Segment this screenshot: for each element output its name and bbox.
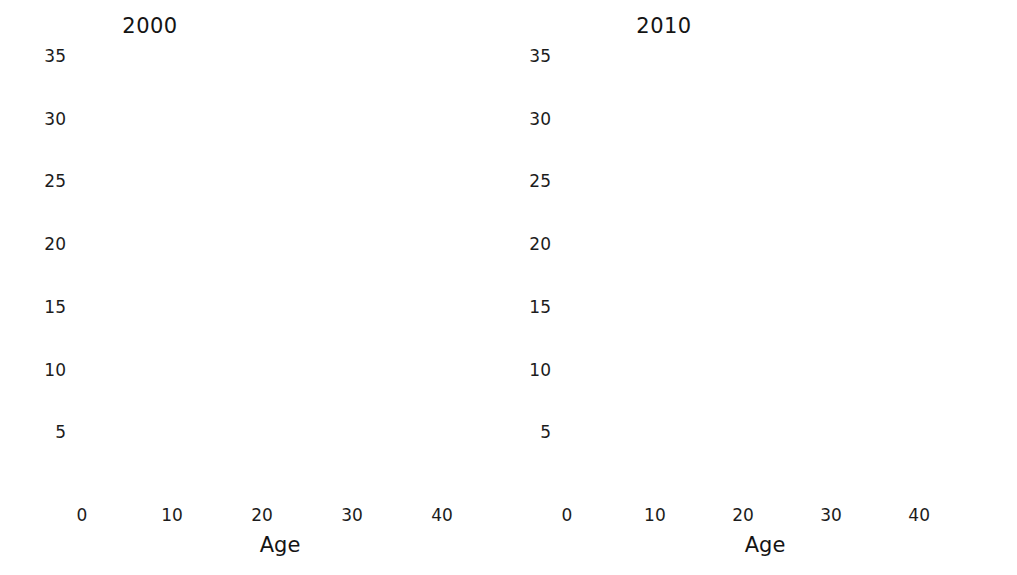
histogram-bar <box>351 419 355 494</box>
histogram-bar <box>945 481 949 494</box>
histogram-bar <box>396 444 400 494</box>
histogram-bar <box>619 444 623 494</box>
panel-title-2010: 2010 <box>509 14 1017 38</box>
histogram-bar <box>936 404 940 494</box>
histogram-bar <box>432 481 436 494</box>
y-tick-label: 10 <box>44 360 66 380</box>
histogram-bar <box>297 287 301 494</box>
histogram-bar <box>279 302 283 494</box>
histogram-bar <box>189 318 193 494</box>
histogram-bar <box>135 419 139 494</box>
histogram-bar <box>360 406 364 494</box>
x-axis-label-2010: Age <box>558 533 972 557</box>
histogram-bar <box>839 253 843 494</box>
bars-2010 <box>559 57 971 494</box>
histogram-bar <box>874 288 878 494</box>
panel-2000: 2000 5101520253035 010203040 Age <box>0 0 508 575</box>
histogram-bar <box>830 214 834 494</box>
histogram-bar <box>207 193 211 494</box>
x-tick-label: 20 <box>251 505 273 525</box>
histogram-bar <box>243 249 247 494</box>
histogram-bar <box>892 224 896 494</box>
two-panel-histogram-figure: 2000 5101520253035 010203040 Age 2010 51… <box>0 0 1017 575</box>
histogram-bar <box>733 418 737 495</box>
histogram-bar <box>698 419 702 494</box>
histogram-bar <box>812 231 816 494</box>
histogram-bar <box>117 419 121 494</box>
panel-title-2000: 2000 <box>0 14 508 38</box>
histogram-bar <box>848 405 852 494</box>
histogram-bar <box>575 431 579 494</box>
histogram-bar <box>742 443 746 494</box>
histogram-bar <box>252 218 256 494</box>
histogram-bar <box>865 312 869 494</box>
histogram-bar <box>901 325 905 494</box>
histogram-bar <box>450 475 454 494</box>
histogram-bar <box>583 469 587 494</box>
histogram-bar <box>270 356 274 494</box>
histogram-bar <box>180 356 184 494</box>
x-tick-label: 0 <box>561 505 572 525</box>
histogram-bar <box>234 218 238 494</box>
histogram-bar <box>707 446 711 494</box>
y-tick-label: 25 <box>529 171 551 191</box>
y-tick-label: 25 <box>44 171 66 191</box>
plot-area-2010 <box>558 56 972 495</box>
histogram-bar <box>126 444 130 494</box>
histogram-bar <box>654 456 658 494</box>
histogram-bar <box>610 469 614 494</box>
x-tick-label: 40 <box>908 505 930 525</box>
y-tick-label: 20 <box>44 234 66 254</box>
histogram-bar <box>777 229 781 494</box>
x-tick-label: 20 <box>732 505 754 525</box>
histogram-bar <box>724 379 728 494</box>
histogram-bar <box>405 469 409 494</box>
x-tick-label: 30 <box>820 505 842 525</box>
histogram-bar <box>786 188 790 494</box>
histogram-bar <box>342 355 346 494</box>
histogram-bar <box>566 456 570 494</box>
plot-area-2000 <box>73 56 487 495</box>
histogram-bar <box>716 430 720 494</box>
histogram-bar <box>601 456 605 494</box>
histogram-bar <box>198 218 202 494</box>
histogram-bar <box>324 316 328 494</box>
histogram-bar <box>927 443 931 494</box>
histogram-bar <box>636 469 640 494</box>
x-axis-label-2000: Age <box>73 533 487 557</box>
histogram-bar <box>918 341 922 494</box>
histogram-bar <box>306 341 310 494</box>
histogram-bar <box>663 419 667 494</box>
y-tick-label: 15 <box>529 297 551 317</box>
histogram-bar <box>369 456 373 494</box>
histogram-bar <box>90 444 94 494</box>
histogram-bar <box>378 481 382 494</box>
histogram-bar <box>645 419 649 494</box>
histogram-bar <box>99 444 103 494</box>
y-tick-label: 30 <box>529 109 551 129</box>
histogram-bar <box>627 431 631 494</box>
histogram-bar <box>144 381 148 494</box>
histogram-bar <box>856 342 860 494</box>
x-tick-label: 10 <box>161 505 183 525</box>
histogram-bar <box>216 93 220 494</box>
histogram-bar <box>671 444 675 494</box>
histogram-bar <box>108 456 112 494</box>
x-tick-label: 40 <box>431 505 453 525</box>
y-tick-label: 10 <box>529 360 551 380</box>
histogram-bar <box>171 369 175 494</box>
y-tick-label: 35 <box>44 46 66 66</box>
histogram-bar <box>689 456 693 494</box>
histogram-bar <box>821 267 825 494</box>
histogram-bar <box>315 190 319 494</box>
histogram-bar <box>441 444 445 494</box>
histogram-bar <box>288 316 292 494</box>
histogram-bar <box>261 227 265 494</box>
histogram-bar <box>804 80 808 494</box>
histogram-bar <box>81 419 85 494</box>
histogram-bar <box>153 419 157 494</box>
histogram-bar <box>768 308 772 494</box>
x-tick-label: 0 <box>77 505 88 525</box>
histogram-bar <box>909 367 913 494</box>
y-tick-label: 15 <box>44 297 66 317</box>
